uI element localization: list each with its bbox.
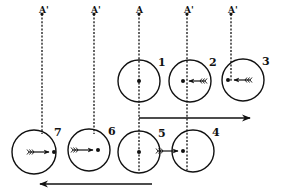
moving-point (137, 150, 141, 154)
marker-label: A' (90, 5, 101, 15)
arrow-fletching-icon (27, 150, 29, 155)
reference-line-marker: A' (227, 5, 238, 82)
moving-point (137, 79, 141, 83)
circle-number: 2 (209, 56, 217, 69)
marker-label: A' (227, 5, 238, 15)
circle-1: 1 (118, 56, 166, 102)
circle-6: 6 (68, 125, 116, 171)
moving-point (181, 149, 185, 153)
moving-point (226, 78, 230, 82)
circle-5: 5 (118, 127, 166, 173)
arrow-fletching-icon (250, 78, 252, 83)
arrow-fletching-icon (205, 79, 207, 84)
marker-label: A (135, 5, 144, 15)
arrow-fletching-icon (156, 149, 158, 154)
reference-line-marker: A' (90, 5, 101, 134)
circle-number: 1 (158, 56, 166, 69)
moving-point (96, 148, 100, 152)
marker-label: A' (183, 5, 194, 15)
circle-number: 3 (262, 55, 270, 68)
circle-number: 5 (158, 127, 166, 140)
circle-number: 7 (54, 126, 62, 139)
arrow-fletching-icon (71, 148, 73, 153)
reference-line-marker: A' (183, 5, 194, 170)
reference-line-marker: A (135, 5, 144, 172)
diagram-canvas: A'A'AA'A' 1234567 (0, 0, 283, 194)
circle-outline (172, 130, 214, 172)
circle-number: 6 (108, 125, 116, 138)
circle-3: 3 (222, 55, 270, 101)
marker-label: A' (38, 5, 49, 15)
circle-number: 4 (212, 126, 220, 139)
reference-line-marker: A' (38, 5, 49, 134)
circle-2: 2 (169, 56, 217, 102)
moving-point (181, 79, 185, 83)
moving-point (52, 150, 56, 154)
circle-7: 7 (12, 126, 62, 174)
